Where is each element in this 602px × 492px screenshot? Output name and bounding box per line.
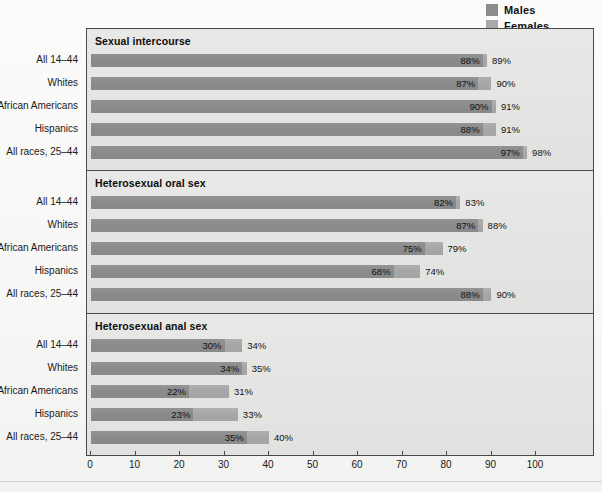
bar-value-males: 75%	[403, 244, 422, 254]
bar-segment-females[interactable]	[483, 288, 492, 301]
bar-segment-females[interactable]	[247, 431, 269, 444]
chart-area: Sexual intercourse88%89%87%90%90%91%88%9…	[86, 28, 594, 456]
bar-segment-males[interactable]: 68%	[91, 265, 394, 278]
bar-segment-females[interactable]	[225, 339, 243, 352]
y-axis-label: All 14–44	[36, 55, 78, 65]
bar-value-males: 30%	[202, 341, 221, 351]
bar-value-females: 79%	[448, 244, 467, 254]
panel-title: Sexual intercourse	[95, 35, 191, 47]
bar-segment-males[interactable]: 23%	[91, 408, 193, 421]
bar-row: 87%90%	[87, 74, 593, 94]
bar-value-males: 23%	[171, 410, 190, 420]
bar-segment-females[interactable]	[193, 408, 238, 421]
y-axis-labels: All 14–44WhitesAfrican AmericansHispanic…	[0, 28, 82, 455]
bar-segment-females[interactable]	[492, 100, 496, 113]
bar-segment-males[interactable]: 75%	[91, 242, 425, 255]
bar-segment-females[interactable]	[483, 54, 487, 67]
bar-segment-females[interactable]	[523, 146, 527, 159]
x-axis-line	[86, 455, 594, 456]
y-axis-label: Whites	[47, 220, 78, 230]
bar-segment-males[interactable]: 22%	[91, 385, 189, 398]
stacked-bar[interactable]: 68%	[91, 265, 420, 278]
bar-value-females: 98%	[532, 148, 551, 158]
panel-rows: 30%34%34%35%22%31%23%33%35%40%	[87, 336, 593, 452]
bar-value-females: 33%	[243, 410, 262, 420]
stacked-bar[interactable]: 90%	[91, 100, 496, 113]
bar-segment-females[interactable]	[189, 385, 229, 398]
figure-canvas: Males Females All 14–44WhitesAfrican Ame…	[0, 0, 602, 492]
bar-value-males: 22%	[167, 387, 186, 397]
bar-value-males: 87%	[456, 79, 475, 89]
bar-segment-males[interactable]: 88%	[91, 123, 483, 136]
stacked-bar[interactable]: 35%	[91, 431, 269, 444]
bar-segment-males[interactable]: 88%	[91, 54, 483, 67]
stacked-bar[interactable]: 87%	[91, 77, 491, 90]
bar-value-males: 35%	[225, 433, 244, 443]
bar-segment-males[interactable]: 87%	[91, 77, 478, 90]
bar-segment-females[interactable]	[425, 242, 443, 255]
bar-value-males: 82%	[434, 198, 453, 208]
stacked-bar[interactable]: 23%	[91, 408, 238, 421]
bar-row: 82%83%	[87, 193, 593, 213]
x-axis-tick-label: 80	[440, 459, 451, 470]
stacked-bar[interactable]: 88%	[91, 288, 491, 301]
x-axis-tick-label: 10	[129, 459, 140, 470]
legend-swatch-males-icon	[486, 4, 498, 16]
bar-row: 75%79%	[87, 239, 593, 259]
panel-title: Heterosexual oral sex	[95, 177, 206, 189]
bar-segment-females[interactable]	[483, 123, 496, 136]
bar-segment-females[interactable]	[456, 196, 460, 209]
stacked-bar[interactable]: 30%	[91, 339, 242, 352]
bar-row: 88%90%	[87, 285, 593, 305]
bar-row: 23%33%	[87, 405, 593, 425]
bar-value-males: 88%	[461, 125, 480, 135]
x-axis-tick-label: 20	[173, 459, 184, 470]
panel-1: Sexual intercourse88%89%87%90%90%91%88%9…	[87, 29, 593, 171]
y-axis-label: All 14–44	[36, 197, 78, 207]
bar-segment-males[interactable]: 82%	[91, 196, 456, 209]
x-axis-tick	[90, 451, 91, 456]
x-axis-tick-label: 90	[485, 459, 496, 470]
stacked-bar[interactable]: 88%	[91, 54, 487, 67]
stacked-bar[interactable]: 97%	[91, 146, 527, 159]
bar-segment-females[interactable]	[478, 77, 491, 90]
bar-segment-females[interactable]	[394, 265, 421, 278]
bar-segment-males[interactable]: 35%	[91, 431, 247, 444]
bar-segment-males[interactable]: 97%	[91, 146, 523, 159]
bar-row: 88%91%	[87, 120, 593, 140]
x-axis-tick-label: 50	[307, 459, 318, 470]
stacked-bar[interactable]: 34%	[91, 362, 247, 375]
x-axis-tick	[268, 451, 269, 456]
bar-value-females: 88%	[488, 221, 507, 231]
stacked-bar[interactable]: 88%	[91, 123, 496, 136]
panel-2: Heterosexual oral sex82%83%87%88%75%79%6…	[87, 171, 593, 314]
x-axis-tick-label: 60	[351, 459, 362, 470]
stacked-bar[interactable]: 75%	[91, 242, 443, 255]
bar-segment-females[interactable]	[478, 219, 482, 232]
y-axis-label: African Americans	[0, 243, 78, 253]
y-axis-label: All 14–44	[36, 340, 78, 350]
panel-rows: 88%89%87%90%90%91%88%91%97%98%	[87, 51, 593, 166]
x-axis-tick	[535, 451, 536, 456]
y-axis-label: All races, 25–44	[6, 147, 78, 157]
x-axis-tick	[224, 451, 225, 456]
y-axis-label: African Americans	[0, 101, 78, 111]
bar-segment-males[interactable]: 34%	[91, 362, 242, 375]
stacked-bar[interactable]: 82%	[91, 196, 460, 209]
bar-value-males: 87%	[456, 221, 475, 231]
bar-value-females: 74%	[425, 267, 444, 277]
bar-segment-females[interactable]	[242, 362, 246, 375]
stacked-bar[interactable]: 22%	[91, 385, 229, 398]
bar-row: 90%91%	[87, 97, 593, 117]
bar-segment-males[interactable]: 30%	[91, 339, 225, 352]
bar-value-males: 97%	[501, 148, 520, 158]
bar-value-females: 90%	[497, 290, 516, 300]
x-axis-tick	[313, 451, 314, 456]
bar-segment-males[interactable]: 87%	[91, 219, 478, 232]
stacked-bar[interactable]: 87%	[91, 219, 483, 232]
bar-row: 68%74%	[87, 262, 593, 282]
bar-segment-males[interactable]: 88%	[91, 288, 483, 301]
bar-segment-males[interactable]: 90%	[91, 100, 492, 113]
bar-value-females: 89%	[492, 56, 511, 66]
bar-value-males: 88%	[461, 56, 480, 66]
